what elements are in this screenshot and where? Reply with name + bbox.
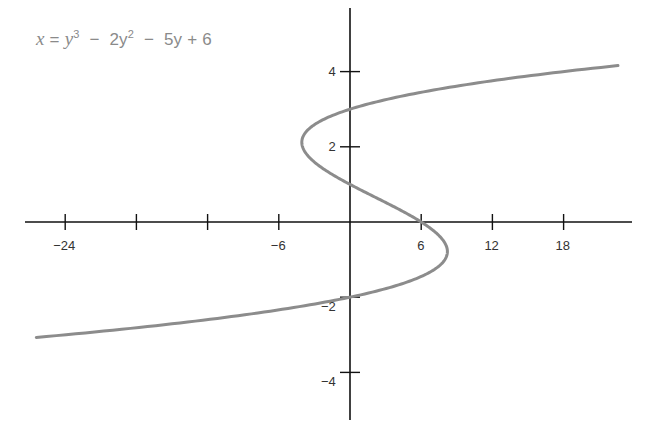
y-tick-label: 2 [329,139,336,154]
eq-lhs: x [36,28,45,49]
x-tick-label: 18 [556,238,570,253]
x-tick-label: −6 [271,238,286,253]
eq-term-5y: 5y [164,30,182,49]
x-tick-label: 6 [417,238,424,253]
eq-term-2y: 2y [109,30,127,49]
x-tick-label: −24 [53,238,75,253]
y-tick-label: −2 [321,299,336,314]
x-tick-label: 12 [484,238,498,253]
eq-exp-2: 2 [128,28,134,40]
eq-exp-3: 3 [73,28,79,40]
cubic-curve [36,66,618,338]
eq-term-y: y [65,28,74,49]
eq-const: 6 [202,30,212,49]
y-tick-label: 4 [329,64,336,79]
equation-label: x = y3 − 2y2 − 5y + 6 [36,28,212,50]
y-tick-label: −4 [321,374,336,389]
